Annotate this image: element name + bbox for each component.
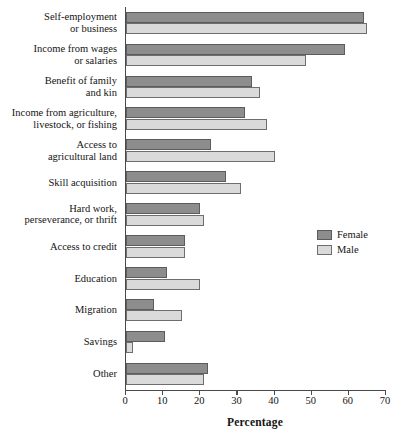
- bar-female: [126, 203, 200, 214]
- legend-label-male: Male: [337, 244, 359, 255]
- bar-male: [126, 279, 200, 290]
- bar-male: [126, 215, 204, 226]
- x-tick-label: 50: [305, 395, 316, 406]
- bar-female: [126, 12, 364, 23]
- bar-male: [126, 55, 306, 66]
- category-label: Savings: [0, 336, 117, 348]
- x-tick-label: 40: [268, 395, 279, 406]
- x-tick-label: 70: [380, 395, 391, 406]
- legend-label-female: Female: [337, 229, 368, 240]
- category-label: Migration: [0, 304, 117, 316]
- x-tick-label: 30: [231, 395, 242, 406]
- bar-female: [126, 363, 208, 374]
- legend-swatch-male-icon: [317, 245, 332, 255]
- x-tick-label: 20: [194, 395, 205, 406]
- x-axis-title: Percentage: [125, 416, 385, 428]
- bar-female: [126, 76, 252, 87]
- bar-male: [126, 87, 260, 98]
- bar-female: [126, 235, 185, 246]
- bar-male: [126, 151, 275, 162]
- bar-male: [126, 119, 267, 130]
- chart-legend: Female Male: [317, 228, 397, 258]
- bar-female: [126, 299, 154, 310]
- bar-female: [126, 267, 167, 278]
- bar-male: [126, 247, 185, 258]
- category-label: Other: [0, 368, 117, 380]
- legend-item-male: Male: [317, 243, 397, 256]
- plot-area: [125, 7, 386, 391]
- bar-chart: Self-employment or businessIncome from w…: [0, 0, 402, 437]
- category-label: Education: [0, 273, 117, 285]
- bar-female: [126, 44, 345, 55]
- category-label: Access to agricultural land: [0, 139, 117, 162]
- bar-female: [126, 107, 245, 118]
- bar-male: [126, 374, 204, 385]
- category-label: Self-employment or business: [0, 11, 117, 34]
- legend-item-female: Female: [317, 228, 397, 241]
- category-label: Skill acquisition: [0, 177, 117, 189]
- x-tick-label: 60: [343, 395, 354, 406]
- bar-male: [126, 23, 367, 34]
- bar-female: [126, 171, 226, 182]
- category-label: Access to credit: [0, 241, 117, 253]
- bar-male: [126, 310, 182, 321]
- x-tick-label: 10: [157, 395, 168, 406]
- legend-swatch-female-icon: [317, 230, 332, 240]
- x-tick-label: 0: [122, 395, 127, 406]
- bar-female: [126, 139, 211, 150]
- category-labels: Self-employment or businessIncome from w…: [0, 7, 121, 390]
- bar-male: [126, 183, 241, 194]
- category-label: Benefit of family and kin: [0, 75, 117, 98]
- bar-male: [126, 342, 133, 353]
- category-label: Income from agriculture, livestock, or f…: [0, 107, 117, 130]
- category-label: Income from wages or salaries: [0, 43, 117, 66]
- category-label: Hard work, perseverance, or thrift: [0, 203, 117, 226]
- bar-female: [126, 331, 165, 342]
